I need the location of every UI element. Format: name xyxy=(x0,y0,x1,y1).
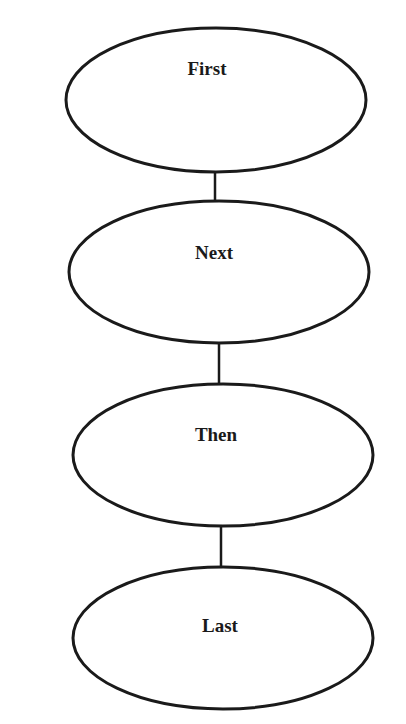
node-last-ellipse xyxy=(73,567,373,709)
node-then-label: Then xyxy=(195,425,237,444)
flow-diagram: First Next Then Last xyxy=(0,0,406,724)
node-last-label: Last xyxy=(202,616,238,635)
node-then-ellipse xyxy=(73,384,373,526)
node-first-ellipse xyxy=(66,28,366,172)
node-next-ellipse xyxy=(69,201,369,343)
node-first-label: First xyxy=(187,59,226,78)
node-next-label: Next xyxy=(195,243,233,262)
